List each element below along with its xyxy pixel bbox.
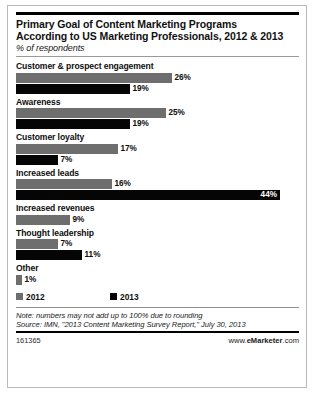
- bar-group: Increased leads16%44%: [16, 168, 299, 201]
- chart-card: Primary Goal of Content Marketing Progra…: [7, 5, 307, 388]
- bar-row: 19%: [16, 119, 299, 129]
- bar-2012: [16, 239, 58, 249]
- bar-group: Customer loyalty17%7%: [16, 132, 299, 165]
- brand-name: eMarketer: [247, 336, 283, 345]
- bar-2012: [16, 73, 172, 83]
- chart-id: 161365: [16, 336, 41, 345]
- bar-2012: [16, 179, 112, 189]
- chart-title-line1: Primary Goal of Content Marketing Progra…: [16, 18, 237, 30]
- bar-value-label: 7%: [58, 239, 72, 249]
- bar-value-label: 17%: [118, 144, 137, 154]
- bar-value-label: 26%: [172, 73, 191, 83]
- legend-label: 2013: [120, 292, 139, 302]
- legend-divider: [16, 307, 299, 308]
- category-label: Awareness: [16, 97, 299, 107]
- bar-2013: [16, 155, 58, 165]
- bar-2012: [16, 144, 118, 154]
- bar-group: Increased revenues9%: [16, 203, 299, 225]
- bar-value-label: 16%: [112, 179, 131, 189]
- bar-2013: [16, 190, 280, 200]
- bar-group: Customer & prospect engagement26%19%: [16, 61, 299, 94]
- category-label: Customer & prospect engagement: [16, 61, 299, 71]
- bar-value-label: 19%: [130, 119, 149, 129]
- category-label: Increased leads: [16, 168, 299, 178]
- brand-prefix: www.: [228, 336, 246, 345]
- legend-label: 2012: [26, 292, 45, 302]
- bar-row: 11%: [16, 250, 299, 260]
- category-label: Thought leadership: [16, 228, 299, 238]
- category-label: Other: [16, 263, 299, 273]
- bar-row: 9%: [16, 215, 299, 225]
- bar-value-label: 9%: [70, 215, 84, 225]
- bar-row: 19%: [16, 84, 299, 94]
- legend-item-2013[interactable]: 2013: [110, 292, 139, 302]
- category-label: Increased revenues: [16, 203, 299, 213]
- bar-2012: [16, 215, 70, 225]
- legend-swatch-icon: [16, 293, 23, 300]
- brand-suffix: .com: [283, 336, 299, 345]
- footer-rule: [16, 331, 299, 333]
- legend-item-2012[interactable]: 2012: [16, 292, 45, 302]
- bar-value-label: 11%: [82, 250, 100, 260]
- bar-row: 17%: [16, 144, 299, 154]
- bar-2012: [16, 108, 166, 118]
- category-label: Customer loyalty: [16, 132, 299, 142]
- chart-title: Primary Goal of Content Marketing Progra…: [16, 19, 299, 42]
- bar-row: 16%: [16, 179, 299, 189]
- bar-group: Thought leadership7%11%: [16, 228, 299, 261]
- bar-row: 44%: [16, 190, 299, 200]
- chart-subtitle: % of respondents: [16, 43, 299, 53]
- bar-row: 26%: [16, 73, 299, 83]
- bar-group: Other1%: [16, 263, 299, 285]
- bar-chart-plot: Customer & prospect engagement26%19%Awar…: [16, 61, 299, 285]
- chart-footer: 161365 www.eMarketer.com: [16, 336, 299, 347]
- bar-2013: [16, 84, 130, 94]
- bar-row: 25%: [16, 108, 299, 118]
- legend-swatch-icon: [110, 293, 117, 300]
- bar-row: 7%: [16, 155, 299, 165]
- bar-value-label: 25%: [166, 108, 185, 118]
- bar-2013: [16, 250, 82, 260]
- bar-value-label: 19%: [130, 84, 149, 94]
- chart-title-line2: According to US Marketing Professionals,…: [16, 30, 283, 42]
- bar-row: 1%: [16, 275, 299, 285]
- bar-group: Awareness25%19%: [16, 97, 299, 130]
- chart-legend: 20122013: [16, 292, 299, 304]
- title-divider: [16, 56, 299, 57]
- emarketer-brand: www.eMarketer.com: [228, 336, 299, 345]
- chart-note: Note: numbers may not add up to 100% due…: [16, 311, 299, 320]
- chart-source: Source: IMN, "2013 Content Marketing Sur…: [16, 320, 299, 329]
- bar-value-label: 7%: [58, 155, 72, 165]
- header-rule: [16, 12, 299, 15]
- bar-row: 7%: [16, 239, 299, 249]
- bar-2013: [16, 119, 130, 129]
- bar-value-label: 44%: [261, 190, 280, 200]
- bar-value-label: 1%: [22, 275, 36, 285]
